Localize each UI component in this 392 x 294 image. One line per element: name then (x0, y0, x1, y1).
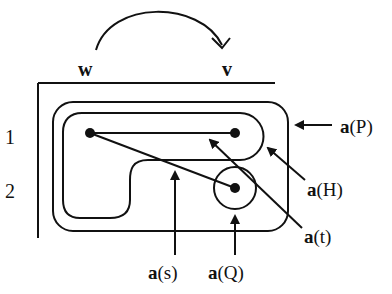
row-label-1: 1 (5, 126, 15, 148)
arrow-a-H (268, 148, 305, 180)
label-a-t: a(t) (304, 226, 331, 248)
label-a-P: a(P) (340, 116, 373, 138)
node-dot-lower (230, 183, 240, 193)
label-w: w (78, 58, 93, 80)
region-P-outline (53, 102, 288, 231)
row-label-2: 2 (5, 180, 15, 202)
label-a-s: a(s) (148, 262, 178, 284)
node-dot-left (85, 128, 95, 138)
label-v: v (222, 58, 232, 80)
diagram-canvas: w v 1 2 a(P) a(H) a(t) a(s) a(Q) (0, 0, 392, 294)
curved-arrow-w-to-v (96, 12, 230, 50)
node-dot-right (230, 128, 240, 138)
label-a-H: a(H) (307, 179, 343, 201)
label-a-Q: a(Q) (208, 262, 244, 284)
